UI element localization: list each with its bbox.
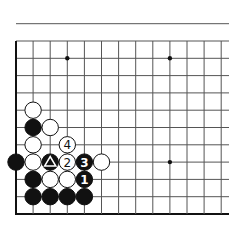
stone-body	[59, 189, 75, 205]
white-stone	[59, 171, 75, 187]
black-stone: 1	[76, 171, 92, 187]
black-stone	[8, 154, 24, 170]
white-stone: 2	[59, 154, 75, 170]
white-stone: 4	[59, 137, 75, 153]
stone-body	[25, 119, 41, 135]
move-number-label: 3	[80, 156, 88, 170]
black-stone	[59, 189, 75, 205]
stone-body	[59, 171, 75, 187]
stone-body	[25, 189, 41, 205]
black-stone: 3	[76, 154, 92, 170]
move-number-label: 1	[80, 173, 88, 187]
stone-body	[25, 154, 41, 170]
stone-body	[25, 171, 41, 187]
go-board: 4231	[0, 0, 238, 226]
star-point	[65, 56, 69, 60]
white-stone	[42, 119, 58, 135]
stone-body	[42, 119, 58, 135]
star-point	[168, 160, 172, 164]
stones: 4231	[8, 102, 110, 205]
stone-body	[42, 189, 58, 205]
move-number-label: 4	[63, 138, 71, 152]
black-stone	[42, 154, 58, 170]
white-stone	[42, 171, 58, 187]
stone-body	[8, 154, 24, 170]
white-stone	[25, 137, 41, 153]
stone-body	[25, 137, 41, 153]
stone-body	[76, 189, 92, 205]
star-point	[168, 56, 172, 60]
black-stone	[76, 189, 92, 205]
white-stone	[25, 154, 41, 170]
stone-body	[93, 154, 109, 170]
move-number-label: 2	[63, 156, 71, 170]
black-stone	[42, 189, 58, 205]
black-stone	[25, 119, 41, 135]
black-stone	[25, 171, 41, 187]
stone-body	[42, 171, 58, 187]
white-stone	[25, 102, 41, 118]
stone-body	[25, 102, 41, 118]
black-stone	[25, 189, 41, 205]
white-stone	[93, 154, 109, 170]
